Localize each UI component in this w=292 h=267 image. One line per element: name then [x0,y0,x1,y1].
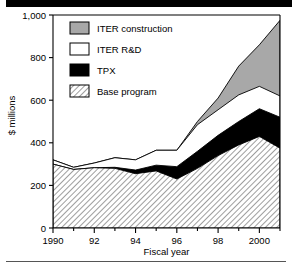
y-tick-label: 800 [30,52,46,63]
x-tick-label: 2000 [249,235,270,246]
y-tick-label: 600 [30,95,46,106]
y-tick-label: 0 [41,223,46,234]
x-tick-label: 98 [213,235,224,246]
x-axis-title: Fiscal year [53,246,280,257]
x-tick-label: 94 [130,235,141,246]
legend-swatch-iter-rd [70,43,89,55]
y-tick-label: 400 [30,137,46,148]
y-axis-title: $ millions [6,86,17,146]
legend-swatch-iter-construction [70,22,89,34]
x-tick-label: 92 [89,235,100,246]
y-tick-label: 1,000 [22,10,46,21]
legend-swatch-base-program [70,85,89,97]
figure-container: 02004006008001,000 1990929496982000 ITER… [0,0,292,267]
legend-label-iter-construction: ITER construction [97,23,173,34]
legend-label-iter-rd: ITER R&D [97,44,141,55]
y-axis-tick-labels: 02004006008001,000 [22,10,46,234]
x-tick-label: 1990 [42,235,63,246]
figure-bottom-rule [6,261,286,262]
legend-label-tpx: TPX [97,65,116,76]
x-tick-label: 96 [172,235,183,246]
x-axis-tick-labels: 1990929496982000 [42,235,270,246]
x-axis-ticks [53,228,280,233]
y-axis-ticks [49,15,53,228]
legend-swatch-tpx [70,64,89,76]
y-tick-label: 200 [30,180,46,191]
legend-label-base-program: Base program [97,86,157,97]
stacked-area-chart: 02004006008001,000 1990929496982000 ITER… [0,0,292,267]
